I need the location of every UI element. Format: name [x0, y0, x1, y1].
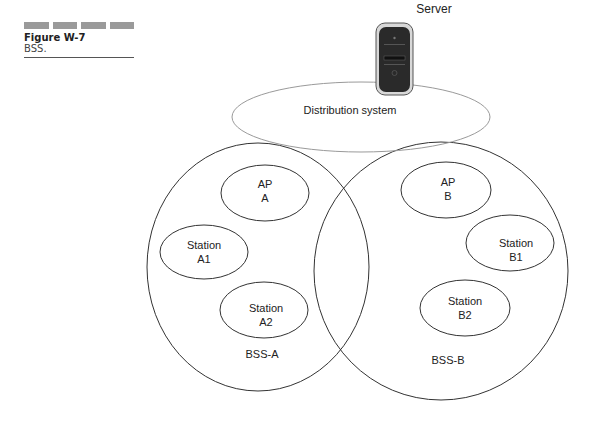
svg-text:Station: Station [448, 295, 482, 307]
ap-a-node: AP A [221, 165, 309, 221]
svg-text:Station: Station [499, 237, 533, 249]
bss-diagram: Distribution system Server AP A Station … [0, 0, 594, 423]
svg-text:AP: AP [441, 176, 456, 188]
station-b2-node: Station B2 [420, 280, 510, 336]
svg-text:AP: AP [258, 178, 273, 190]
svg-text:A1: A1 [197, 253, 210, 265]
server-icon [376, 23, 413, 95]
station-a1-node: Station A1 [160, 225, 248, 279]
distribution-system-label: Distribution system [304, 104, 397, 116]
svg-text:B: B [444, 190, 451, 202]
server-label: Server [416, 2, 451, 16]
svg-text:Station: Station [249, 302, 283, 314]
svg-text:B1: B1 [509, 251, 522, 263]
svg-text:A: A [261, 192, 269, 204]
station-b1-node: Station B1 [466, 215, 554, 271]
svg-text:Station: Station [187, 239, 221, 251]
bss-b-label: BSS-B [431, 354, 464, 366]
svg-text:A2: A2 [259, 316, 272, 328]
station-a2-node: Station A2 [220, 282, 308, 338]
distribution-system-ellipse [232, 82, 490, 152]
bss-a-label: BSS-A [245, 348, 279, 360]
svg-text:B2: B2 [458, 309, 471, 321]
ap-b-node: AP B [401, 162, 491, 218]
